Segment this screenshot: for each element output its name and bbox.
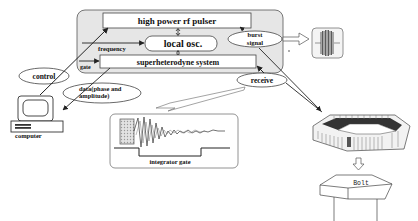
local-osc-label: local osc. xyxy=(164,38,203,49)
receive-to-integrator-arrow xyxy=(156,87,245,111)
control-label: control xyxy=(33,72,56,81)
svg-text:signal: signal xyxy=(247,39,263,46)
rf-pulser-label: high power rf pulser xyxy=(138,16,217,26)
computer-icon: computer xyxy=(11,96,63,139)
control-node: control xyxy=(19,68,69,84)
burst-output-arrow xyxy=(283,33,309,52)
svg-text:burst: burst xyxy=(248,31,264,38)
integrator-gate-label: integrator gate xyxy=(149,158,190,165)
gate-label: gate xyxy=(80,64,91,70)
receive-label: receive xyxy=(251,76,274,85)
superhet-label: superheterodyne system xyxy=(137,58,220,67)
rf-pulser-box: high power rf pulser xyxy=(103,13,251,28)
local-osc-box: local osc. xyxy=(145,36,217,51)
bolt-icon: Bolt xyxy=(320,175,392,221)
superhet-box: superheterodyne system xyxy=(100,55,256,68)
svg-text:amplitude): amplitude) xyxy=(79,92,109,100)
computer-label: computer xyxy=(15,132,42,139)
burst-waveform-icon xyxy=(312,28,343,58)
diagram-canvas: high power rf pulser local osc. superhet… xyxy=(0,0,418,221)
down-arrow-icon xyxy=(353,158,364,170)
frequency-label: frequency xyxy=(98,45,126,52)
integrator-panel: integrator gate xyxy=(110,114,238,168)
bolt-label: Bolt xyxy=(353,180,369,187)
ring-magnet-icon xyxy=(313,115,410,151)
